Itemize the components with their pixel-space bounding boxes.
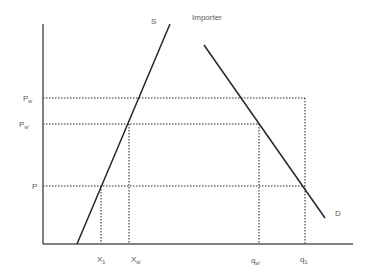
importer-diagram: Importer S D Pw Pw' P X1 Xw' qw' q1 [0,0,376,277]
supply-curve [77,24,170,244]
supply-label: S [151,17,156,26]
pw-prime-label: Pw' [19,120,29,130]
qw-prime-label: qw' [251,256,260,266]
p-label: P [32,182,37,191]
q1-label: q1 [300,255,308,265]
x1-label: X1 [97,255,105,265]
demand-curve [204,45,325,218]
xw-prime-label: Xw' [131,255,141,265]
diagram-title: Importer [192,13,222,22]
pw-label: Pw [23,94,32,104]
guide-lines [43,98,305,244]
demand-label: D [335,209,341,218]
